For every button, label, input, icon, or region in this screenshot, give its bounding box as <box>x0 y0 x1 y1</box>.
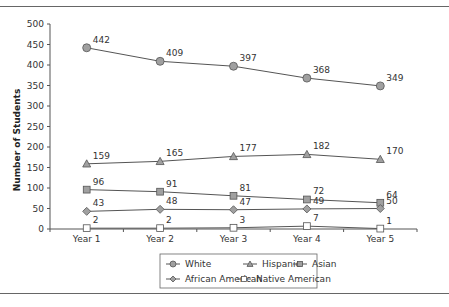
open-square-marker-icon <box>157 225 164 232</box>
square-marker-icon <box>83 186 90 193</box>
y-tick-label: 400 <box>27 60 44 70</box>
legend-label: Native American <box>256 274 331 284</box>
circle-marker-icon <box>170 261 176 267</box>
series-white: 442409397368349 <box>83 35 404 90</box>
x-tick-label: Year 2 <box>145 234 174 244</box>
diamond-marker-icon <box>83 207 91 215</box>
legend-label: Asian <box>312 259 337 269</box>
data-label: 177 <box>240 143 257 153</box>
diamond-marker-icon <box>156 205 164 213</box>
circle-marker-icon <box>303 74 311 82</box>
x-tick-label: Year 4 <box>292 234 321 244</box>
data-label: 96 <box>93 177 105 187</box>
y-tick-label: 0 <box>38 224 44 234</box>
data-label: 165 <box>166 148 183 158</box>
y-tick-label: 150 <box>27 163 44 173</box>
data-label: 49 <box>313 196 325 206</box>
y-axis-label: Number of Students <box>12 89 22 191</box>
data-label: 349 <box>386 73 403 83</box>
circle-marker-icon <box>156 57 164 65</box>
data-label: 48 <box>166 196 178 206</box>
square-marker-icon <box>297 261 302 266</box>
open-square-marker-icon <box>304 223 311 230</box>
open-square-marker-icon <box>377 225 384 232</box>
data-label: 442 <box>93 35 110 45</box>
square-marker-icon <box>230 192 237 199</box>
circle-marker-icon <box>83 44 91 52</box>
open-square-marker-icon <box>241 276 246 281</box>
open-square-marker-icon <box>230 224 237 231</box>
y-tick-label: 350 <box>27 81 44 91</box>
data-label: 7 <box>313 213 319 223</box>
series-african-american: 4348474950 <box>83 196 398 216</box>
circle-marker-icon <box>376 82 384 90</box>
square-marker-icon <box>157 188 164 195</box>
data-label: 182 <box>313 141 330 151</box>
series-hispanic: 159165177182170 <box>83 141 404 167</box>
legend-label: White <box>185 259 212 269</box>
data-label: 43 <box>93 198 104 208</box>
data-label: 50 <box>386 196 398 206</box>
series-group: 4424093973683491591651771821709691817264… <box>83 35 404 232</box>
data-label: 397 <box>240 53 257 63</box>
y-tick-label: 250 <box>27 122 44 132</box>
y-tick-label: 200 <box>27 142 44 152</box>
x-tick-label: Year 5 <box>365 234 394 244</box>
line-chart: 050100150200250300350400450500 Year 1Yea… <box>0 0 449 307</box>
y-tick-label: 50 <box>33 204 45 214</box>
y-tick-label: 450 <box>27 40 44 50</box>
data-label: 368 <box>313 65 330 75</box>
data-label: 1 <box>386 216 392 226</box>
circle-marker-icon <box>230 62 238 70</box>
y-axis: 050100150200250300350400450500 <box>27 19 50 234</box>
data-label: 81 <box>240 183 251 193</box>
square-marker-icon <box>304 196 311 203</box>
open-square-marker-icon <box>83 225 90 232</box>
data-label: 170 <box>386 146 403 156</box>
diamond-marker-icon <box>230 206 238 214</box>
y-tick-label: 300 <box>27 101 44 111</box>
y-tick-label: 500 <box>27 19 44 29</box>
data-label: 2 <box>93 215 99 225</box>
y-tick-label: 100 <box>27 183 44 193</box>
data-label: 409 <box>166 48 183 58</box>
legend: WhiteHispanicAsianAfrican AmericanNative… <box>160 254 337 288</box>
x-tick-label: Year 3 <box>219 234 248 244</box>
data-label: 2 <box>166 215 172 225</box>
diamond-marker-icon <box>303 205 311 213</box>
x-tick-label: Year 1 <box>72 234 101 244</box>
data-label: 3 <box>240 215 246 225</box>
data-label: 91 <box>166 179 177 189</box>
data-label: 159 <box>93 151 110 161</box>
data-label: 47 <box>240 197 251 207</box>
